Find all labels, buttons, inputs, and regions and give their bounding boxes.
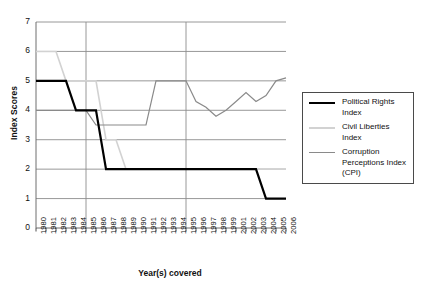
x-tick-label: 1985 — [89, 217, 98, 234]
x-tick-label: 1998 — [219, 217, 228, 234]
x-tick-label: 1997 — [209, 217, 218, 234]
x-tick-label: 2002 — [249, 217, 258, 234]
y-tick-label: 0 — [14, 222, 30, 232]
x-tick-label: 1991 — [149, 217, 158, 234]
x-tick-label: 2001 — [239, 217, 248, 234]
y-tick-label: 1 — [14, 193, 30, 203]
legend-label-line2: Perceptions Index — [342, 158, 406, 167]
y-tick-label: 2 — [14, 163, 30, 173]
chart-legend: Political Rights Index Civil Liberties I… — [302, 92, 414, 184]
x-tick-label: 1986 — [99, 217, 108, 234]
legend-swatch-political-rights — [309, 102, 335, 104]
x-tick-label: 1989 — [129, 217, 138, 234]
legend-item-civil-liberties: Civil Liberties Index — [309, 122, 390, 143]
x-axis-title: Year(s) covered — [60, 268, 280, 278]
y-tick-label: 5 — [14, 75, 30, 85]
legend-swatch-civil-liberties — [309, 127, 335, 129]
legend-item-cpi: Corruption Perceptions Index (CPI) — [309, 147, 406, 179]
x-tick-label: 1994 — [179, 217, 188, 234]
x-tick-label: 1984 — [79, 217, 88, 234]
x-tick-label: 1990 — [139, 217, 148, 234]
legend-label-line1: Corruption — [342, 147, 379, 156]
y-tick-label: 4 — [14, 104, 30, 114]
x-tick-label: 2005 — [279, 217, 288, 234]
x-tick-label: 1981 — [49, 217, 58, 234]
legend-item-political-rights: Political Rights Index — [309, 97, 394, 118]
x-tick-label: 2003 — [259, 217, 268, 234]
legend-label-line1: Political Rights — [342, 97, 394, 106]
y-tick-label: 6 — [14, 45, 30, 55]
x-tick-label: 1996 — [199, 217, 208, 234]
legend-label-cpi: Corruption Perceptions Index (CPI) — [342, 147, 406, 179]
legend-label-line1: Civil Liberties — [342, 122, 390, 131]
legend-label-line3: (CPI) — [342, 168, 361, 177]
x-tick-label: 1995 — [189, 217, 198, 234]
x-tick-label: 1993 — [169, 217, 178, 234]
line-chart: Index Scores Year(s) covered 01234567 19… — [0, 0, 421, 284]
legend-label-political-rights: Political Rights Index — [342, 97, 394, 118]
legend-label-line2: Index — [342, 133, 362, 142]
x-tick-label: 1999 — [229, 217, 238, 234]
x-tick-label: 1983 — [69, 217, 78, 234]
y-tick-label: 3 — [14, 134, 30, 144]
y-tick-label: 7 — [14, 16, 30, 26]
legend-label-line2: Index — [342, 108, 362, 117]
legend-swatch-cpi — [309, 152, 335, 153]
x-tick-label: 1992 — [159, 217, 168, 234]
x-tick-label: 1980 — [39, 217, 48, 234]
x-tick-label: 1988 — [119, 217, 128, 234]
x-tick-label: 1987 — [109, 217, 118, 234]
x-tick-label: 2006 — [289, 217, 298, 234]
x-tick-label: 1982 — [59, 217, 68, 234]
x-tick-label: 2004 — [269, 217, 278, 234]
legend-label-civil-liberties: Civil Liberties Index — [342, 122, 390, 143]
